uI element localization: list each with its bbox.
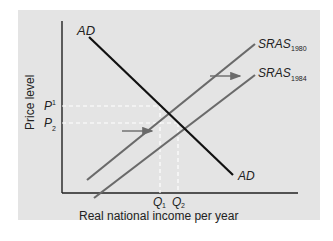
ad-label-bottom: AD (237, 169, 255, 183)
sras-1984-line (94, 75, 255, 198)
x-axis-title: Real national income per year (79, 209, 238, 223)
q2-label: Q (172, 195, 181, 209)
sras-1980-sub: 1980 (291, 45, 307, 52)
p1-label: P (44, 99, 52, 113)
sras-1984-label: SRAS (258, 66, 291, 80)
q1-label: Q (153, 195, 162, 209)
ad-line (89, 37, 233, 175)
chart-svg: AD AD SRAS 1980 SRAS 1984 P 1 P 2 Q 1 Q … (0, 0, 333, 241)
y-axis-title: Price level (23, 75, 37, 130)
p2-sub: 2 (52, 125, 56, 132)
p1-sub: 1 (52, 99, 56, 106)
ad-label-top: AD (76, 23, 95, 38)
p2-label: P (44, 116, 52, 130)
q2-sub: 2 (181, 202, 185, 209)
sras-1980-line (87, 44, 255, 180)
sras-1984-sub: 1984 (291, 75, 307, 82)
sras-1980-label: SRAS (258, 37, 291, 51)
q1-sub: 1 (162, 202, 166, 209)
